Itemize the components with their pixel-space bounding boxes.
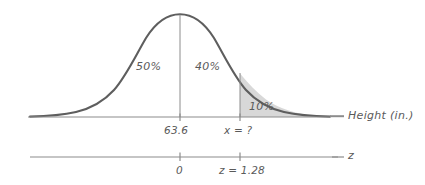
z-tick-label-zero: 0 — [176, 165, 183, 176]
z-axis-title: z — [348, 150, 354, 161]
normal-distribution-diagram: 50% 40% 10% 63.6 x = ? 0 z = 1.28 Height… — [0, 0, 425, 185]
height-tick-label-mean: 63.6 — [164, 125, 188, 136]
height-tick-label-cutoff: x = ? — [224, 125, 252, 136]
height-axis-title: Height (in.) — [348, 110, 414, 121]
z-tick-label-cutoff: z = 1.28 — [219, 165, 265, 176]
distribution-graphic — [0, 0, 425, 185]
region-label-left-half: 50% — [136, 61, 161, 72]
region-label-right-tail: 10% — [249, 101, 274, 112]
region-label-mean-to-cutoff: 40% — [195, 61, 220, 72]
